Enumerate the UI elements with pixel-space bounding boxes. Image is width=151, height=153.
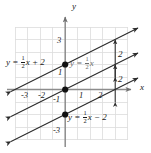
equation-lower: y = 12x − 2 [68, 110, 107, 124]
graph-canvas [0, 0, 151, 153]
equation-middle-slope-numerator: 1 [85, 56, 89, 63]
y-axis-label: y [72, 2, 76, 11]
x-tick-2: 2 [98, 91, 102, 100]
x-tick-1: 1 [79, 91, 83, 100]
coordinate-graph-figure: y x -3 -2 1 2 3 1 -1 -3 2 2 y = 12x + 2 … [0, 0, 151, 153]
equation-upper-slope-denominator: 2 [21, 62, 25, 70]
measure-label-lower: 2 [118, 75, 123, 84]
y-tick-3: 3 [57, 36, 61, 45]
equation-upper: y = 12x + 2 [6, 55, 45, 69]
axes [7, 17, 131, 147]
y-tick--3: -3 [53, 126, 60, 135]
equation-upper-lhs: y [6, 57, 10, 67]
x-tick--2: -2 [38, 91, 45, 100]
equation-middle-lhs: y [70, 58, 74, 68]
equation-upper-operator: + [32, 57, 38, 67]
dot-upper [62, 61, 68, 67]
equation-lower-slope-numerator: 1 [83, 110, 87, 117]
equation-middle-variable: x [90, 58, 94, 68]
equation-upper-intercept: 2 [40, 57, 45, 67]
measure-label-upper: 2 [118, 50, 123, 59]
dot-origin [62, 86, 68, 92]
equation-upper-slope-numerator: 1 [21, 55, 25, 62]
equation-middle-equals: = [76, 58, 82, 68]
equation-lower-operator: − [94, 112, 100, 122]
plotted-lines [11, 28, 138, 142]
equation-lower-intercept: 2 [102, 112, 107, 122]
equation-lower-slope-fraction: 12 [83, 110, 87, 124]
x-tick--3: -3 [21, 91, 28, 100]
equation-middle: y = 12x [70, 56, 94, 70]
equation-middle-slope-fraction: 12 [85, 56, 89, 70]
equation-upper-variable: x [26, 57, 30, 67]
equation-lower-slope-denominator: 2 [83, 117, 87, 125]
equation-lower-lhs: y [68, 112, 72, 122]
x-axis-label: x [140, 83, 144, 92]
y-tick--1: -1 [53, 95, 60, 104]
equation-lower-equals: = [74, 112, 80, 122]
equation-upper-equals: = [12, 57, 18, 67]
equation-middle-slope-denominator: 2 [85, 63, 89, 71]
y-tick-1: 1 [58, 68, 62, 77]
equation-upper-slope-fraction: 12 [21, 55, 25, 69]
equation-lower-variable: x [88, 112, 92, 122]
